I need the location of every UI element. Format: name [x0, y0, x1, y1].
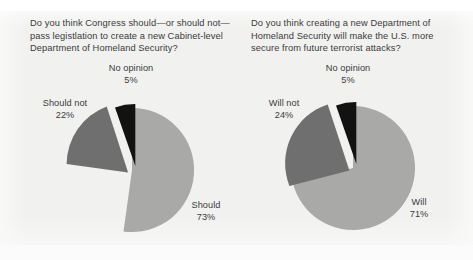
slice-label-name: Will	[412, 197, 427, 207]
slice-label-name: Should not	[43, 98, 87, 108]
slice-label-value: 24%	[248, 110, 320, 122]
slice-label-value: 22%	[24, 110, 106, 122]
slice-label-value: 73%	[177, 212, 235, 224]
slice-label-no-opinion: No opinion 5%	[311, 63, 385, 86]
pie-chart-more-secure: No opinion 5% Will not 24% Will 71%	[243, 0, 465, 260]
slice-label-name: Should	[192, 200, 221, 210]
pie-chart-congress-legislation: No opinion 5% Should not 22% Should 73%	[22, 0, 244, 260]
slice-label-will: Will 71%	[395, 197, 443, 220]
slice-label-should: Should 73%	[177, 200, 235, 223]
slice-label-value: 5%	[311, 75, 385, 87]
slice-label-no-opinion: No opinion 5%	[94, 63, 168, 86]
panel-congress-legislation: Do you think Congress should—or should n…	[22, 0, 244, 260]
panel-more-secure: Do you think creating a new Department o…	[243, 0, 465, 260]
slice-label-value: 71%	[395, 209, 443, 221]
pie-svg	[243, 0, 465, 260]
poll-figure: Do you think Congress should—or should n…	[0, 0, 473, 260]
slice-label-name: Will not	[269, 98, 300, 108]
slice-label-should-not: Should not 22%	[24, 98, 106, 121]
slice-label-value: 5%	[94, 75, 168, 87]
slice-label-will-not: Will not 24%	[248, 98, 320, 121]
slice-label-name: No opinion	[109, 63, 153, 73]
slice-label-name: No opinion	[326, 63, 370, 73]
